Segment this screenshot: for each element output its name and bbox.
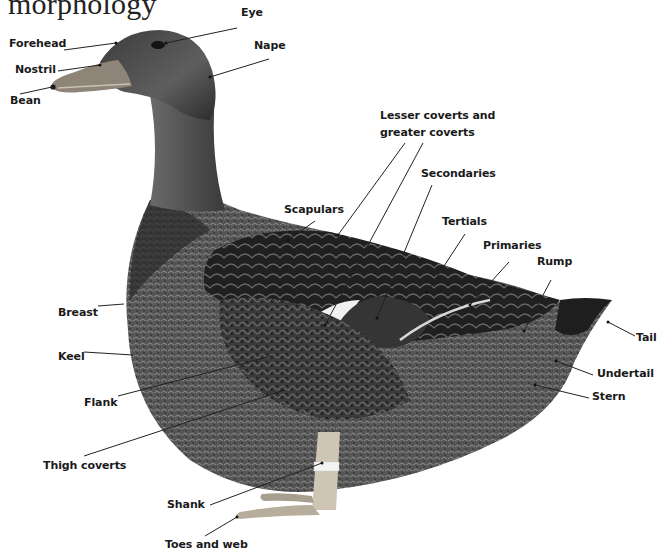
label-stern: Stern <box>592 390 625 404</box>
label-shank: Shank <box>167 498 205 512</box>
leader-tail <box>608 322 635 336</box>
label-bean: Bean <box>10 94 41 108</box>
label-eye: Eye <box>241 6 263 20</box>
label-rump: Rump <box>537 255 572 269</box>
label-forehead: Forehead <box>9 37 66 51</box>
label-nape: Nape <box>254 39 286 53</box>
leader-lesser-coverts <box>338 143 405 235</box>
label-thigh-coverts: Thigh coverts <box>43 459 126 473</box>
duck-toes <box>236 505 320 519</box>
duck-tail <box>555 298 612 335</box>
label-breast: Breast <box>58 306 98 320</box>
label-tertials: Tertials <box>442 215 487 229</box>
label-lesser-coverts-line1: Lesser coverts and <box>380 109 495 123</box>
leader-keel <box>84 352 133 355</box>
duck-illustration <box>0 0 657 557</box>
label-greater-coverts-line2: greater coverts <box>380 126 475 140</box>
leg-band <box>314 462 339 471</box>
label-nostril: Nostril <box>15 63 56 77</box>
label-flank: Flank <box>84 396 117 410</box>
leader-bean <box>20 87 52 94</box>
label-secondaries: Secondaries <box>421 167 496 181</box>
leader-nape <box>210 59 269 77</box>
label-primaries: Primaries <box>483 239 541 253</box>
label-undertail: Undertail <box>597 367 654 381</box>
leader-toes-and-web <box>205 517 237 536</box>
leader-breast <box>98 304 124 306</box>
label-scapulars: Scapulars <box>284 203 344 217</box>
leader-forehead <box>64 43 116 50</box>
label-keel: Keel <box>58 350 85 364</box>
label-tail: Tail <box>636 331 657 345</box>
label-toes-and-web: Toes and web <box>165 538 248 552</box>
